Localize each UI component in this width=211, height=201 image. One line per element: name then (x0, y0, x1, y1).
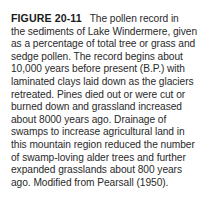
caption-line: laminated clays laid down as the glacier… (11, 76, 207, 89)
caption-line: 10,000 years before present (B.P.) with (11, 63, 207, 76)
caption-line: this mountain region reduced the number (11, 139, 207, 152)
caption-line: of swamp-loving alder trees and further (11, 152, 207, 165)
caption-line: the sediments of Lake Windermere, given (11, 26, 207, 39)
caption-line: ago. Modified from Pearsall (1950). (11, 177, 207, 190)
caption-line: about 8000 years ago. Drainage of (11, 114, 207, 127)
caption-text: The pollen record in (90, 13, 179, 24)
caption-line: expanded grasslands about 800 years (11, 164, 207, 177)
caption-line: swamps to increase agricultural land in (11, 126, 207, 139)
figure-label: FIGURE 20-11 (11, 12, 82, 24)
caption-line: sedge pollen. The record begins about (11, 51, 207, 64)
caption-line: retreated. Pines died out or were cut or (11, 89, 207, 102)
figure-caption: FIGURE 20-11The pollen record in the sed… (11, 12, 207, 189)
caption-line-1: FIGURE 20-11The pollen record in (11, 12, 207, 26)
caption-line: burned down and grassland increased (11, 101, 207, 114)
caption-line: as a percentage of total tree or grass a… (11, 38, 207, 51)
